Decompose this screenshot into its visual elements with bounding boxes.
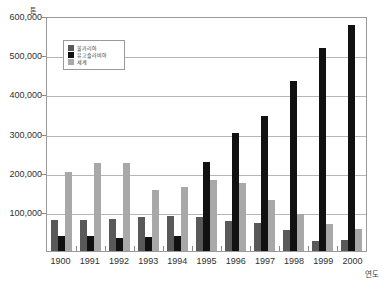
- bar: [203, 162, 210, 251]
- y-axis-tick-label: 400,000: [0, 90, 46, 100]
- x-axis-tick-label: 1993: [134, 256, 163, 266]
- bar: [145, 237, 152, 251]
- bar-group: [134, 18, 163, 251]
- bar: [174, 236, 181, 251]
- legend-item-label: 세계: [77, 59, 87, 65]
- y-axis-tick-label: 300,000: [0, 130, 46, 140]
- x-axis-title: 연도: [0, 268, 379, 279]
- y-axis-tick-mark: [42, 135, 46, 136]
- bar: [65, 172, 72, 251]
- y-axis-tick-label: 200,000: [0, 169, 46, 179]
- bar-group: [192, 18, 221, 251]
- y-axis-tick-mark: [42, 95, 46, 96]
- legend-item-label: 불가리아: [77, 45, 97, 51]
- bar: [87, 236, 94, 251]
- legend-item: 세계: [68, 59, 120, 65]
- bar-chart: 톤 600,000500,000400,000300,000200,000100…: [0, 0, 383, 286]
- x-axis-tick-label: 1900: [46, 256, 75, 266]
- bar: [268, 200, 275, 251]
- bar-group: [163, 18, 192, 251]
- bar: [210, 180, 217, 251]
- legend-item: 유고슬라비아: [68, 52, 120, 58]
- bar: [348, 25, 355, 251]
- bar: [123, 163, 130, 251]
- bar: [239, 183, 246, 251]
- bar: [167, 216, 174, 251]
- legend-item-label: 유고슬라비아: [77, 52, 107, 58]
- y-axis-tick-mark: [42, 17, 46, 18]
- y-axis-tick-label: 500,000: [0, 51, 46, 61]
- x-axis-tick-label: 1995: [192, 256, 221, 266]
- bar: [283, 230, 290, 251]
- bar: [319, 48, 326, 251]
- x-axis-tick-label: 1997: [250, 256, 279, 266]
- x-axis-tick-label: 1999: [309, 256, 338, 266]
- bar: [152, 190, 159, 251]
- bar: [138, 217, 145, 251]
- bar: [51, 220, 58, 251]
- bar: [80, 220, 87, 251]
- legend-swatch-icon: [68, 59, 74, 65]
- y-axis-tick-label: 100,000: [0, 208, 46, 218]
- bar: [58, 236, 65, 251]
- bar: [261, 116, 268, 251]
- bar: [290, 81, 297, 251]
- bar: [297, 214, 304, 251]
- x-axis-tick-labels: 1900199119921993199419951996199719981999…: [46, 256, 367, 266]
- bar: [341, 240, 348, 251]
- bar: [196, 217, 203, 251]
- bar-group: [250, 18, 279, 251]
- y-axis-tick-mark: [42, 174, 46, 175]
- x-axis-tick-label: 1991: [75, 256, 104, 266]
- legend-item: 불가리아: [68, 45, 120, 51]
- bar: [225, 221, 232, 251]
- bar: [109, 219, 116, 252]
- chart-legend: 불가리아유고슬라비아세계: [63, 40, 125, 70]
- x-axis-tick-label: 1998: [280, 256, 309, 266]
- bar: [326, 224, 333, 251]
- bar-group: [221, 18, 250, 251]
- y-axis-tick-label: 600,000: [0, 12, 46, 22]
- legend-swatch-icon: [68, 52, 74, 58]
- x-axis-tick-label: 1994: [163, 256, 192, 266]
- bar-group: [308, 18, 337, 251]
- y-axis-tick-mark: [42, 56, 46, 57]
- bar: [116, 238, 123, 251]
- bar: [355, 229, 362, 251]
- x-axis-tick-label: 1992: [104, 256, 133, 266]
- y-axis-tick-mark: [42, 213, 46, 214]
- bar: [312, 241, 319, 251]
- bar-group: [279, 18, 308, 251]
- bar: [94, 163, 101, 251]
- legend-swatch-icon: [68, 45, 74, 51]
- bar-group: [337, 18, 366, 251]
- x-axis-tick-label: 2000: [338, 256, 367, 266]
- x-axis-tick-label: 1996: [221, 256, 250, 266]
- bar: [181, 187, 188, 251]
- bar: [254, 223, 261, 251]
- bar: [232, 133, 239, 251]
